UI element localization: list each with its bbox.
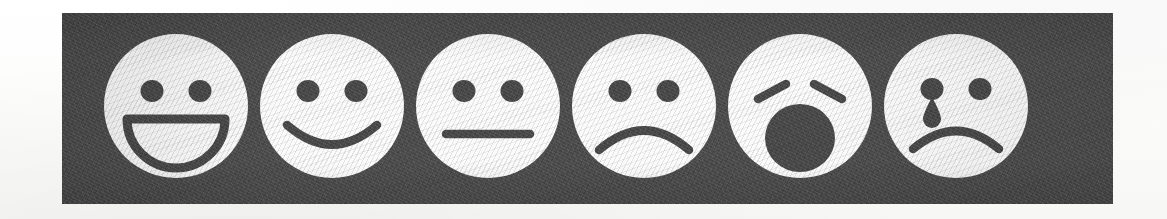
face-sad[interactable] — [571, 33, 717, 179]
frowning-face-icon — [571, 33, 717, 179]
face-shocked[interactable] — [727, 33, 873, 179]
crying-face-icon — [883, 33, 1029, 179]
neutral-face-icon — [415, 33, 561, 179]
face-crying[interactable] — [883, 33, 1029, 179]
face-neutral[interactable] — [415, 33, 561, 179]
face-very-happy[interactable] — [103, 33, 249, 179]
grinning-face-icon — [103, 33, 249, 179]
face-happy[interactable] — [259, 33, 405, 179]
smiling-face-icon — [259, 33, 405, 179]
screenshot-root — [0, 0, 1167, 219]
emotion-scale-strip — [62, 13, 1113, 204]
emotion-face-row — [62, 13, 1113, 204]
shocked-face-icon — [727, 33, 873, 179]
